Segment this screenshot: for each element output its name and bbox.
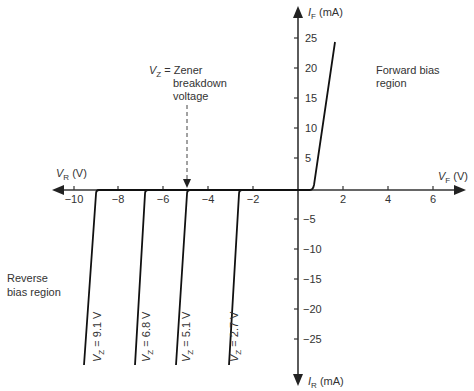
x-tick-label: −2 bbox=[247, 193, 260, 205]
x-tick-labels: −10 −8 −6 −4 −2 2 4 6 bbox=[65, 193, 436, 205]
y-tick-label: −5 bbox=[303, 213, 316, 225]
zener-note: VZ = Zener breakdown voltage bbox=[149, 64, 230, 102]
curve-label-9v1: VZ = 9.1 V bbox=[91, 311, 106, 362]
y-tick-label: −25 bbox=[303, 333, 322, 345]
y-tick-label: 10 bbox=[305, 122, 317, 134]
if-axis-label: IF (mA) bbox=[308, 6, 343, 21]
y-tick-label: −20 bbox=[303, 303, 322, 315]
y-tick-label: −15 bbox=[303, 273, 322, 285]
y-tick-label: 25 bbox=[305, 32, 317, 44]
x-tick-label: −4 bbox=[202, 193, 215, 205]
x-tick-label: 6 bbox=[430, 193, 436, 205]
x-tick-label: 4 bbox=[385, 193, 391, 205]
reverse-curve-6v8 bbox=[135, 190, 298, 365]
y-axis-positive-arrow-icon bbox=[293, 6, 303, 18]
x-tick-label: −6 bbox=[157, 193, 170, 205]
ir-axis-label: IR (mA) bbox=[308, 375, 344, 390]
curve-label-5v1: VZ = 5.1 V bbox=[180, 311, 195, 362]
zener-iv-diagram: −10 −8 −6 −4 −2 2 4 6 25 20 15 10 5 −5 −… bbox=[0, 0, 474, 391]
curve-label-6v8: VZ = 6.8 V bbox=[140, 311, 155, 362]
x-axis-positive-arrow-icon bbox=[454, 185, 466, 195]
vr-axis-label: VR (V) bbox=[56, 167, 87, 182]
y-tick-label: 5 bbox=[305, 152, 311, 164]
zener-pointer-arrow-icon bbox=[183, 179, 191, 188]
y-axis-negative-arrow-icon bbox=[293, 374, 303, 386]
x-tick-label: 2 bbox=[340, 193, 346, 205]
forward-region-label: Forward bias region bbox=[376, 64, 443, 89]
vf-axis-label: VF (V) bbox=[438, 170, 468, 185]
reverse-region-label: Reverse bias region bbox=[7, 272, 61, 298]
y-tick-label: 20 bbox=[305, 62, 317, 74]
y-tick-label: 15 bbox=[305, 92, 317, 104]
y-tick-label: −10 bbox=[303, 243, 322, 255]
x-tick-label: −10 bbox=[65, 193, 84, 205]
x-tick-label: −8 bbox=[112, 193, 125, 205]
x-axis-negative-arrow-icon bbox=[52, 185, 64, 195]
